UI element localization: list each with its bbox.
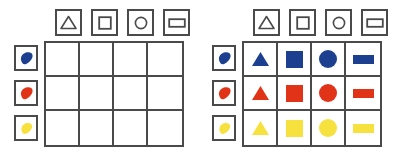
square-filled-icon — [286, 85, 303, 102]
grid-cell[interactable] — [46, 43, 80, 77]
blue-paint-blob-icon — [18, 50, 35, 67]
triangle-filled-icon — [251, 51, 270, 67]
red-paint-blob-icon — [216, 85, 233, 102]
grid-cell-blue-triangle[interactable] — [244, 43, 278, 77]
triangle-filled-icon — [251, 120, 270, 136]
row-header-red[interactable] — [14, 80, 38, 106]
grid-cell-red-triangle[interactable] — [244, 77, 278, 111]
filled-grid-row-headers — [212, 45, 236, 141]
grid-cell[interactable] — [148, 111, 182, 145]
yellow-paint-blob-icon — [18, 120, 35, 137]
triangle-filled-icon — [251, 85, 270, 101]
row-header-yellow[interactable] — [212, 115, 236, 141]
circle-outline-icon — [332, 16, 346, 30]
yellow-paint-blob-icon — [216, 120, 233, 137]
grid-cell-yellow-square[interactable] — [278, 111, 312, 145]
column-header-triangle[interactable] — [253, 9, 280, 36]
column-header-circle[interactable] — [127, 9, 154, 36]
circle-filled-icon — [319, 119, 337, 137]
circle-filled-icon — [319, 50, 337, 68]
grid-cell[interactable] — [46, 111, 80, 145]
grid-cell[interactable] — [148, 43, 182, 77]
rectangle-filled-icon — [353, 55, 374, 64]
triangle-outline-icon — [60, 15, 77, 30]
grid-cell-yellow-rectangle[interactable] — [346, 111, 380, 145]
grid-cell[interactable] — [148, 77, 182, 111]
triangle-outline-icon — [258, 15, 275, 30]
rectangle-filled-icon — [353, 124, 374, 133]
square-filled-icon — [286, 120, 303, 137]
rectangle-outline-icon — [366, 17, 384, 29]
row-header-red[interactable] — [212, 80, 236, 106]
row-header-yellow[interactable] — [14, 115, 38, 141]
square-outline-icon — [296, 16, 310, 30]
filled-grid — [242, 41, 382, 147]
grid-cell[interactable] — [80, 43, 114, 77]
grid-cell-red-circle[interactable] — [312, 77, 346, 111]
row-header-blue[interactable] — [212, 45, 236, 71]
grid-cell[interactable] — [80, 111, 114, 145]
circle-filled-icon — [319, 84, 337, 102]
grid-cell-red-square[interactable] — [278, 77, 312, 111]
red-paint-blob-icon — [18, 85, 35, 102]
rectangle-outline-icon — [168, 17, 186, 29]
filled-grid-column-headers — [253, 9, 388, 36]
grid-cell[interactable] — [114, 111, 148, 145]
empty-grid-column-headers — [55, 9, 190, 36]
grid-cell[interactable] — [114, 77, 148, 111]
row-header-blue[interactable] — [14, 45, 38, 71]
grid-cell[interactable] — [80, 77, 114, 111]
column-header-square[interactable] — [91, 9, 118, 36]
column-header-rectangle[interactable] — [163, 9, 190, 36]
empty-grid — [44, 41, 184, 147]
grid-cell[interactable] — [114, 43, 148, 77]
column-header-rectangle[interactable] — [361, 9, 388, 36]
grid-cell-red-rectangle[interactable] — [346, 77, 380, 111]
column-header-circle[interactable] — [325, 9, 352, 36]
grid-cell-blue-rectangle[interactable] — [346, 43, 380, 77]
grid-cell-blue-circle[interactable] — [312, 43, 346, 77]
empty-grid-row-headers — [14, 45, 38, 141]
grid-cell-yellow-triangle[interactable] — [244, 111, 278, 145]
blue-paint-blob-icon — [216, 50, 233, 67]
grid-cell[interactable] — [46, 77, 80, 111]
square-outline-icon — [98, 16, 112, 30]
grid-cell-blue-square[interactable] — [278, 43, 312, 77]
column-header-square[interactable] — [289, 9, 316, 36]
grid-cell-yellow-circle[interactable] — [312, 111, 346, 145]
rectangle-filled-icon — [353, 89, 374, 98]
circle-outline-icon — [134, 16, 148, 30]
attribute-matrix-diagram — [0, 0, 393, 161]
column-header-triangle[interactable] — [55, 9, 82, 36]
square-filled-icon — [286, 51, 303, 68]
